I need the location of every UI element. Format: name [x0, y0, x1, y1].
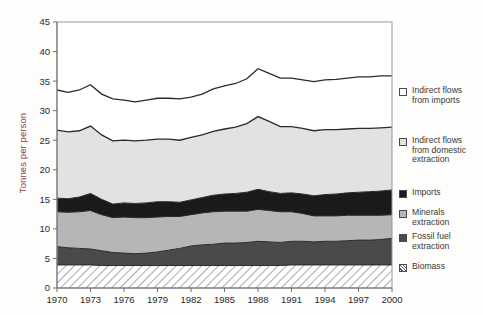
- legend-item[interactable]: Indirect flows from domestic extraction: [399, 136, 466, 165]
- chart-figure: Tonnes per person 051015202530354045 197…: [0, 0, 483, 315]
- y-tick-label: 40: [39, 46, 50, 57]
- legend-item-label: Biomass: [412, 262, 445, 272]
- gray-square-swatch: [399, 210, 407, 218]
- light-gray-square-swatch: [399, 138, 407, 146]
- black-square-swatch: [399, 190, 407, 198]
- x-tick-label: 1982: [180, 294, 201, 305]
- legend-item[interactable]: Biomass: [399, 262, 445, 272]
- x-tick-label: 1979: [147, 294, 168, 305]
- chart-legend: Indirect flows from importsIndirect flow…: [399, 0, 483, 315]
- y-tick-label: 10: [39, 223, 50, 234]
- x-tick-label: 1994: [314, 294, 335, 305]
- hatched-square-swatch: [399, 264, 407, 272]
- x-tick-label: 1997: [348, 294, 369, 305]
- legend-item[interactable]: Fossil fuel extraction: [399, 232, 451, 251]
- x-tick-label: 1970: [46, 294, 67, 305]
- y-tick-label: 0: [45, 282, 50, 293]
- x-tick-label: 1988: [247, 294, 268, 305]
- y-tick-label: 30: [39, 105, 50, 116]
- y-tick-label: 35: [39, 76, 50, 87]
- legend-item[interactable]: Minerals extraction: [399, 208, 449, 227]
- y-tick-label: 45: [39, 16, 50, 27]
- area-series-group: [57, 69, 392, 288]
- legend-item-label: Indirect flows from domestic extraction: [412, 136, 466, 165]
- dark-gray-square-swatch: [399, 234, 407, 242]
- legend-item[interactable]: Imports: [399, 188, 441, 198]
- legend-item-label: Imports: [412, 188, 441, 198]
- x-tick-label: 1976: [113, 294, 134, 305]
- white-square-swatch: [399, 88, 407, 96]
- legend-item-label: Indirect flows from imports: [412, 86, 462, 105]
- x-tick-label: 1973: [80, 294, 101, 305]
- x-axis: 1970197319761979198219851988199119941997…: [46, 288, 402, 305]
- x-tick-label: 1991: [281, 294, 302, 305]
- y-tick-label: 15: [39, 194, 50, 205]
- legend-item-label: Fossil fuel extraction: [412, 232, 451, 251]
- x-tick-label: 1985: [214, 294, 235, 305]
- y-tick-label: 25: [39, 135, 50, 146]
- y-tick-label: 5: [45, 253, 50, 264]
- area-biomass: [57, 265, 392, 288]
- legend-item-label: Minerals extraction: [412, 208, 449, 227]
- y-axis: 051015202530354045: [39, 16, 57, 293]
- legend-item[interactable]: Indirect flows from imports: [399, 86, 462, 105]
- y-tick-label: 20: [39, 164, 50, 175]
